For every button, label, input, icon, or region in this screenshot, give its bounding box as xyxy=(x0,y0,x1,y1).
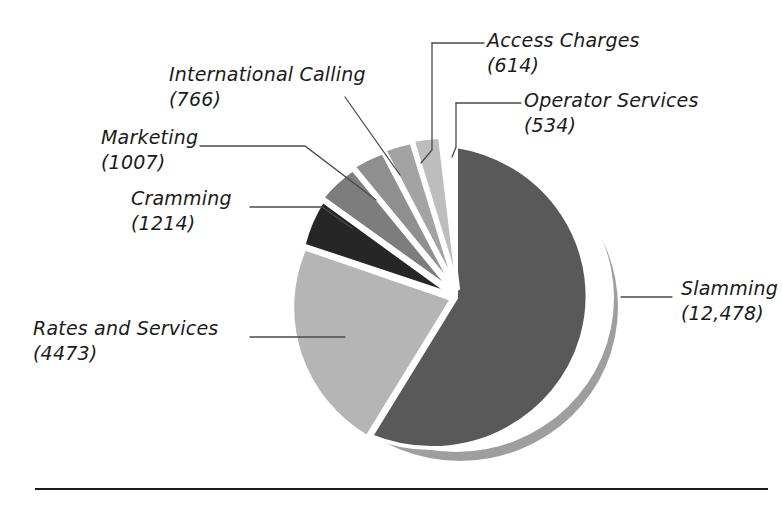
callout-international-calling: International Calling (766) xyxy=(169,62,366,112)
callout-slamming-value: (12,478) xyxy=(681,301,778,326)
callout-slamming: Slamming (12,478) xyxy=(681,276,778,326)
callout-marketing-value: (1007) xyxy=(101,150,198,175)
callout-access-charges-value: (614) xyxy=(487,53,640,78)
pie-chart-figure: Access Charges (614) Operator Services (… xyxy=(0,0,782,505)
pie-chart-canvas xyxy=(0,0,782,505)
callout-cramming-value: (1214) xyxy=(131,211,232,236)
callout-cramming-name: Cramming xyxy=(131,187,232,209)
callout-international-calling-value: (766) xyxy=(169,87,366,112)
callout-operator-services-name: Operator Services xyxy=(524,89,699,111)
callout-rates-and-services-name: Rates and Services xyxy=(33,317,218,339)
callout-slamming-name: Slamming xyxy=(681,277,778,299)
callout-operator-services-value: (534) xyxy=(524,113,699,138)
callout-cramming: Cramming (1214) xyxy=(131,186,232,236)
callout-international-calling-name: International Calling xyxy=(169,63,366,85)
callout-rates-and-services: Rates and Services (4473) xyxy=(33,316,218,366)
callout-marketing-name: Marketing xyxy=(101,126,198,148)
callout-rates-and-services-value: (4473) xyxy=(33,341,218,366)
bottom-divider xyxy=(35,488,768,490)
callout-marketing: Marketing (1007) xyxy=(101,125,198,175)
callout-operator-services: Operator Services (534) xyxy=(524,88,699,138)
callout-access-charges: Access Charges (614) xyxy=(487,28,640,78)
callout-access-charges-name: Access Charges xyxy=(487,29,640,51)
